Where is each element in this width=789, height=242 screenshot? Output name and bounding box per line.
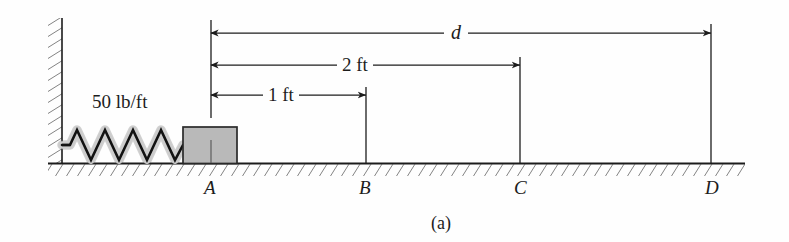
- dimension-label-2ft: 2 ft: [337, 55, 373, 74]
- figure-caption: (a): [431, 214, 451, 232]
- dimension-label-1ft: 1 ft: [263, 85, 299, 104]
- point-label-b: B: [359, 178, 371, 197]
- point-label-a: A: [204, 178, 216, 197]
- point-label-d: D: [705, 178, 719, 197]
- block-body: [183, 127, 237, 164]
- dimension-label-d: d: [444, 22, 468, 42]
- point-label-c: C: [514, 178, 527, 197]
- ground-support-group: [48, 164, 745, 177]
- ground-hatch-fill: [48, 164, 745, 176]
- mechanics-diagram: [0, 0, 789, 242]
- linear-spring: [62, 130, 183, 160]
- spring-stiffness-label: 50 lb/ft: [92, 92, 147, 111]
- figure-a-container: 50 lb/ft d 2 ft 1 ft A B C D (a): [0, 0, 789, 242]
- sliding-block: [183, 127, 237, 164]
